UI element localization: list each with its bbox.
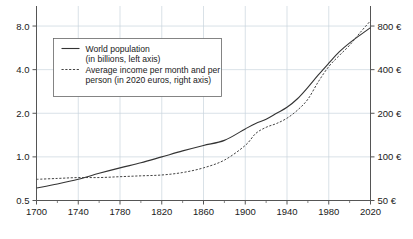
- y-axis-right-ticks: 50 €100 €200 €400 €800 €: [371, 21, 402, 206]
- legend-label-primary: World population: [86, 44, 151, 54]
- y-right-tick-label: 100 €: [378, 151, 402, 162]
- legend-label-primary: Average income per month and per: [86, 65, 221, 75]
- y-right-tick-label: 200 €: [378, 108, 402, 119]
- y-left-tick-label: 4.0: [16, 64, 29, 75]
- legend-label-secondary: person (in 2020 euros, right axis): [86, 75, 212, 85]
- y-left-tick-label: 0.5: [16, 195, 29, 206]
- gridlines: [37, 6, 371, 201]
- x-tick-label: 1900: [235, 206, 256, 217]
- y-right-tick-label: 800 €: [378, 21, 402, 32]
- y-left-tick-label: 2.0: [16, 108, 29, 119]
- x-tick-label: 2020: [360, 206, 381, 217]
- x-axis-ticks: 170017401780182018601900194019802020: [26, 201, 381, 217]
- y-right-tick-label: 50 €: [378, 195, 397, 206]
- x-tick-label: 1700: [26, 206, 47, 217]
- x-tick-label: 1860: [193, 206, 214, 217]
- y-right-tick-label: 400 €: [378, 64, 402, 75]
- y-left-tick-label: 1.0: [16, 151, 29, 162]
- y-axis-left-ticks: 0.51.02.04.08.0: [16, 21, 36, 206]
- x-tick-label: 1740: [68, 206, 89, 217]
- population-income-line-chart: 170017401780182018601900194019802020 0.5…: [0, 0, 413, 239]
- chart-container: 170017401780182018601900194019802020 0.5…: [0, 0, 413, 239]
- chart-legend: World population(in billions, left axis)…: [54, 39, 222, 97]
- legend-label-secondary: (in billions, left axis): [86, 54, 161, 64]
- y-left-tick-label: 8.0: [16, 21, 29, 32]
- x-tick-label: 1820: [151, 206, 172, 217]
- x-tick-label: 1980: [318, 206, 339, 217]
- x-tick-label: 1940: [276, 206, 297, 217]
- x-tick-label: 1780: [109, 206, 130, 217]
